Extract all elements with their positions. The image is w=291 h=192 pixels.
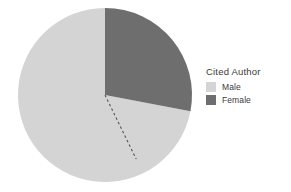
chart-legend: Cited Author Male Female: [206, 66, 288, 108]
legend-title: Cited Author: [206, 66, 288, 77]
legend-item-female[interactable]: Female: [206, 95, 288, 105]
chart-page: Cited Author Male Female: [0, 0, 291, 192]
legend-swatch-male: [206, 82, 216, 92]
legend-item-male[interactable]: Male: [206, 82, 288, 92]
legend-swatch-female: [206, 95, 216, 105]
legend-label-female: Female: [222, 95, 251, 105]
legend-label-male: Male: [222, 82, 241, 92]
